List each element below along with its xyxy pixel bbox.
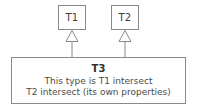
class-box-t1[interactable]: T1 bbox=[58, 5, 86, 30]
class-name-t2: T2 bbox=[119, 13, 132, 23]
class-description-line-2: T2 intersect (its own properties) bbox=[26, 87, 171, 98]
generalization-edge-t3-to-t1 bbox=[66, 31, 78, 58]
generalization-edge-t3-to-t2 bbox=[119, 31, 131, 58]
class-name-t1: T1 bbox=[66, 13, 79, 23]
class-box-t2[interactable]: T2 bbox=[111, 5, 139, 30]
hollow-triangle-arrowhead-t1 bbox=[66, 31, 78, 42]
hollow-triangle-arrowhead-t2 bbox=[119, 31, 131, 42]
uml-class-diagram: T1 T2 T3 This type is T1 intersect T2 in… bbox=[0, 0, 198, 112]
class-description-line-1: This type is T1 intersect bbox=[44, 76, 152, 87]
class-box-t3[interactable]: T3 This type is T1 intersect T2 intersec… bbox=[11, 57, 186, 104]
class-name-t3: T3 bbox=[92, 63, 106, 74]
